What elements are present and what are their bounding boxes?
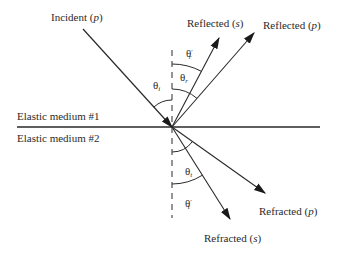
theta-t-prime-mark: ′ xyxy=(190,198,192,206)
theta-i-label: θi xyxy=(153,80,160,93)
reflected-s-label-text: Reflected xyxy=(187,17,229,29)
refracted-p-label-text: Refracted xyxy=(259,205,302,217)
refracted-s-label: Refracted (s) xyxy=(204,233,261,244)
refracted-p-label: Refracted (p) xyxy=(259,206,317,217)
theta-r-arc xyxy=(172,89,197,98)
theta-r-prime-label: θ′r xyxy=(186,48,192,61)
theta-t-prime-label: θ′t xyxy=(185,198,190,211)
wave-diagram xyxy=(0,0,338,256)
reflected-s-label: Reflected (s) xyxy=(187,18,244,29)
theta-r-sub: r xyxy=(185,77,188,85)
refracted-p-ray xyxy=(172,127,265,193)
reflected-p-label-text: Reflected xyxy=(263,19,305,31)
theta-i-arc xyxy=(154,100,172,107)
theta-t-sub: t xyxy=(190,171,192,179)
incident-label-text: Incident xyxy=(51,11,87,23)
refracted-s-ray xyxy=(172,127,230,219)
refracted-s-label-text: Refracted xyxy=(204,232,247,244)
refracted-s-mode: s xyxy=(253,232,257,244)
theta-i-sub: i xyxy=(158,85,160,93)
theta-r-label: θr xyxy=(180,72,188,85)
incident-mode: p xyxy=(93,11,99,23)
reflected-p-label: Reflected (p) xyxy=(263,20,321,31)
theta-r-prime-sub: r xyxy=(189,53,192,61)
theta-r-prime-arc xyxy=(172,64,201,71)
refracted-p-mode: p xyxy=(308,205,314,217)
reflected-p-mode: p xyxy=(312,19,318,31)
lower-medium-label: Elastic medium #2 xyxy=(17,133,99,144)
reflected-s-mode: s xyxy=(236,17,240,29)
incident-p-label: Incident (p) xyxy=(51,12,103,23)
upper-medium-label: Elastic medium #1 xyxy=(17,111,99,122)
theta-t-label: θt xyxy=(185,166,192,179)
theta-t-prime-sub: t xyxy=(188,203,190,211)
